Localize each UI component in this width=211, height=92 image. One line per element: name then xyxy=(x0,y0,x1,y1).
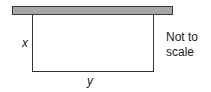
note-line-2: scale xyxy=(166,45,198,60)
side-label-y: y xyxy=(87,75,93,87)
wall-bar xyxy=(12,6,173,15)
not-to-scale-note: Not to scale xyxy=(166,30,198,60)
rectangular-enclosure xyxy=(32,15,154,72)
note-line-1: Not to xyxy=(166,30,198,45)
side-label-x: x xyxy=(22,37,28,49)
